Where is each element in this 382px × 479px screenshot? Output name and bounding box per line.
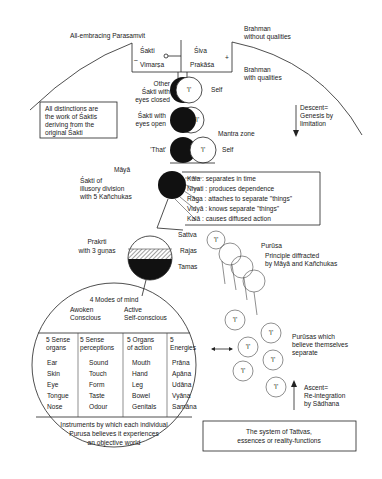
svg-text:Odour: Odour: [89, 403, 108, 410]
svg-text:'I': 'I': [214, 236, 218, 243]
other-sakti-3: eyes closed: [135, 96, 170, 104]
svg-text:Genitals: Genitals: [132, 403, 157, 410]
mode-active-1: Active: [124, 306, 142, 313]
sakti-open-2: eyes open: [136, 120, 167, 128]
siva-label: Śiva: [194, 46, 207, 54]
caption-1: The system of Tattvas,: [246, 428, 312, 436]
svg-text:organs: organs: [46, 344, 67, 352]
I-label-1: 'I': [187, 86, 191, 93]
sakti-open-1: Śakti with: [138, 111, 167, 119]
tattva-diagram: All-embracing Parasamvit Brahman without…: [0, 0, 382, 479]
svg-text:Prāna: Prāna: [172, 359, 190, 366]
maya-desc-3: with 5 Kañchukas: [79, 193, 132, 200]
purusa-title: Purūsa: [261, 242, 282, 249]
svg-text:'I': 'I': [269, 329, 273, 336]
svg-text:Taste: Taste: [89, 392, 105, 399]
caption-2: essences or reality-functions: [237, 437, 321, 445]
svg-text:perceptions: perceptions: [80, 344, 115, 352]
svg-text:Tongue: Tongue: [47, 392, 69, 400]
that-self-circles: 'I': [170, 137, 216, 163]
caption-box: [203, 421, 356, 451]
svg-text:'I': 'I': [271, 356, 275, 363]
mind-column-sense-perceptions: 5 Sense perceptions Sound Touch Form Tas…: [80, 336, 115, 410]
svg-text:5 Sense: 5 Sense: [80, 336, 105, 343]
separate-3: separate: [292, 349, 318, 357]
descent-2: Genesis by: [300, 112, 334, 120]
descent-3: limitation: [300, 120, 326, 127]
distinctions-3: deriving from the: [45, 121, 94, 129]
svg-text:Udāna: Udāna: [172, 381, 192, 388]
other-sakti-crescent: 'I': [170, 77, 202, 103]
svg-text:5 Sense: 5 Sense: [46, 336, 71, 343]
parasamvit-label: All-embracing Parasamvit: [70, 32, 145, 40]
kanchuka-1: Kāla : separates in time: [187, 175, 256, 183]
guna-rajas: Rajas: [180, 247, 198, 255]
svg-text:Nose: Nose: [47, 403, 63, 410]
svg-text:Apāna: Apāna: [172, 370, 191, 378]
svg-text:Energies: Energies: [170, 344, 197, 352]
prakrti-circle: [125, 236, 175, 296]
svg-text:Skin: Skin: [47, 370, 60, 377]
prakasa-label: Prakāśa: [190, 61, 215, 68]
ascent-arrow-icon: [291, 380, 297, 410]
mind-footer-1: Instruments by which each individual: [60, 421, 168, 429]
mind-footer-3: an objective world: [88, 439, 141, 447]
kanchuka-3: Rāga : attaches to separate "things": [187, 195, 293, 203]
purusa-desc-2: by Māyā and Kañchukas: [265, 260, 338, 268]
brahman-with-2: with qualities: [243, 74, 282, 82]
outer-arc-left: [30, 44, 130, 110]
svg-text:Form: Form: [89, 381, 105, 388]
svg-text:Vyāna: Vyāna: [172, 392, 191, 400]
other-sakti-1: Other: [154, 80, 171, 87]
separate-1: Purūsas which: [292, 333, 335, 340]
mind-column-sense-organs: 5 Sense organs Ear Skin Eye Tongue Nose: [46, 336, 71, 410]
I-label-3: 'I': [201, 146, 205, 153]
svg-text:'I': 'I': [241, 367, 245, 374]
other-sakti-2: Śakti with: [142, 87, 171, 95]
svg-text:of action: of action: [127, 344, 152, 351]
ascent-1: Ascent=: [304, 384, 328, 391]
distinctions-2: the work of Śaktis: [45, 112, 98, 120]
self-label-1: Self: [211, 86, 223, 93]
maya-desc-2: illusory division: [80, 185, 125, 193]
svg-text:Mouth: Mouth: [132, 359, 151, 366]
prakrti-1: Prakrti: [87, 238, 107, 245]
svg-text:'I': 'I': [274, 383, 278, 390]
minus-sign: –: [134, 56, 138, 63]
descent-1: Descent=: [300, 104, 328, 111]
outer-arc-right: [232, 42, 362, 135]
ascent-2: Re-integration: [304, 392, 346, 400]
sakti-label: Śakti: [140, 46, 155, 54]
descent-arrow-icon: [293, 105, 299, 137]
svg-text:Touch: Touch: [89, 370, 107, 377]
kanchuka-5: Kalā : causes diffused action: [187, 215, 271, 222]
svg-text:'I': 'I': [233, 316, 237, 323]
sakti-eyes-open-circles: 'I': [170, 107, 204, 133]
svg-text:Bowel: Bowel: [132, 392, 150, 399]
brahman-with-1: Brahman: [244, 66, 271, 73]
prakrti-2: with 3 guṇas: [77, 247, 116, 255]
kanchuka-4: Vidyā : knows separate "things": [187, 205, 280, 213]
svg-text:5 Organs: 5 Organs: [127, 336, 155, 344]
guna-sattva: Sattva: [178, 231, 197, 238]
brahman-without-2: without qualities: [243, 33, 292, 41]
svg-text:Leg: Leg: [132, 381, 143, 389]
I-label-2: 'I': [195, 116, 199, 123]
distinctions-1: All distinctions are: [45, 105, 98, 112]
purusa-desc-1: Principle diffracted: [265, 252, 319, 260]
separate-purusa-circles: 'I' 'I' 'I' 'I' 'I' 'I': [225, 310, 286, 397]
distinctions-4: original Śakti: [45, 128, 83, 137]
mode-awoken-2: Conscious: [70, 314, 101, 321]
maya-desc-1: Śakti of: [80, 176, 102, 184]
double-arrow-icon: [211, 347, 233, 351]
svg-text:Eye: Eye: [47, 381, 59, 389]
mantra-zone-label: Mantra zone: [218, 130, 255, 137]
guna-tamas: Tamas: [178, 263, 198, 270]
mind-column-organs-action: 5 Organs of action Mouth Hand Leg Bowel …: [127, 336, 157, 410]
maya-title: Māyā: [114, 166, 130, 174]
mode-active-2: Self-conscious: [124, 314, 168, 321]
kanchuka-2: Niyati : produces dependence: [187, 185, 275, 193]
mind-column-energies: 5 Energies Prāna Apāna Udāna Vyāna Samān…: [170, 336, 197, 410]
mind-footer-2: Purusa believes it experiences: [69, 430, 159, 438]
svg-text:Samāna: Samāna: [172, 403, 197, 410]
